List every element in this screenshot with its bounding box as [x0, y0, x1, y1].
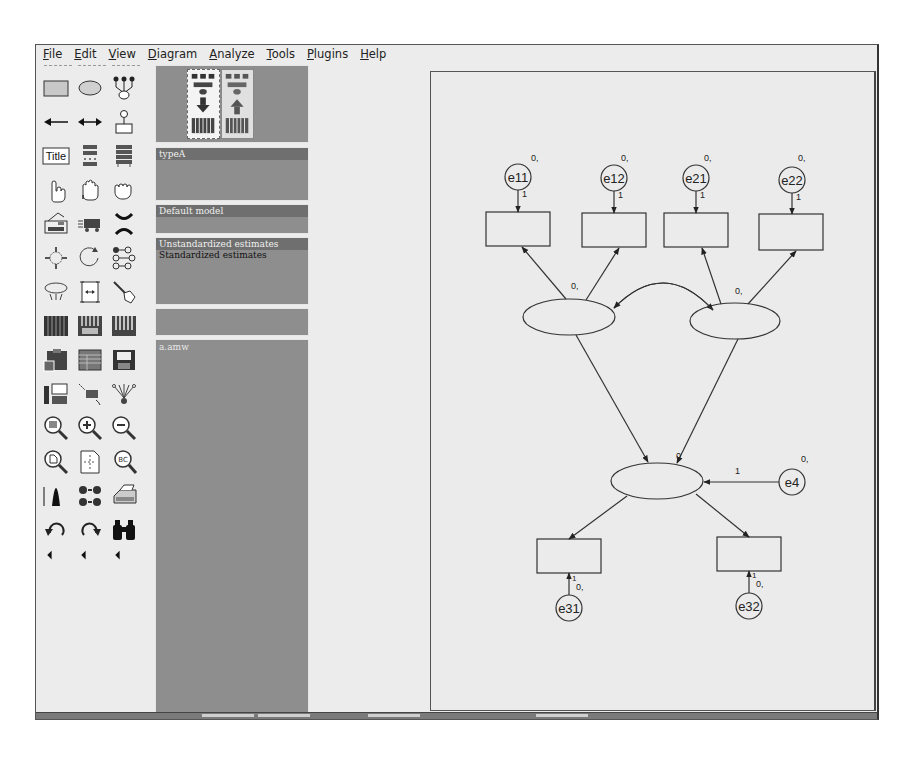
observed-variable-box[interactable]	[537, 539, 601, 573]
menu-plugins[interactable]: Plugins	[302, 47, 353, 61]
error-mean-label: 0,	[576, 582, 584, 592]
menu-help-accel: H	[360, 47, 369, 61]
zoom-page-icon[interactable]	[40, 447, 72, 477]
object-properties-icon[interactable]	[40, 379, 72, 409]
touch-up-variable-icon[interactable]	[108, 277, 140, 307]
menu-file[interactable]: File	[38, 47, 67, 61]
toolbar-grip	[78, 65, 106, 68]
menu-diagram-accel: D	[148, 47, 157, 61]
latent-mean-label: 0,	[735, 286, 743, 296]
move-objects-icon[interactable]	[74, 209, 106, 239]
view-text-output-icon[interactable]	[74, 345, 106, 375]
observed-variable-box[interactable]	[486, 212, 550, 246]
error-label: e4	[785, 475, 799, 490]
unique-variable-icon[interactable]	[108, 107, 140, 137]
observed-variable-box[interactable]	[582, 213, 646, 247]
path-weight-label: 1	[522, 189, 527, 199]
path-diagram: e11 0, 1 e12 0, 1 e21 0, 1 e22 0, 1 0, 0…	[431, 72, 877, 712]
undo-icon[interactable]	[40, 515, 72, 545]
error-mean-label: 0,	[756, 579, 764, 589]
reflect-indicators-icon[interactable]	[108, 243, 140, 273]
latent-variable-outcome[interactable]	[611, 463, 703, 499]
latent-variable-left[interactable]	[523, 299, 615, 335]
file-item[interactable]: a.amw	[156, 340, 308, 352]
view-input-path-diagram-button[interactable]	[187, 69, 220, 139]
scroll-left-icon[interactable]	[74, 547, 106, 563]
scroll-left-icon[interactable]	[40, 547, 72, 563]
scroll-diagram-icon[interactable]	[74, 277, 106, 307]
copy-to-clipboard-icon[interactable]	[40, 345, 72, 375]
menu-help[interactable]: Help	[355, 47, 391, 61]
groups-panel: typeA	[155, 147, 309, 201]
redo-icon[interactable]	[74, 515, 106, 545]
drag-properties-icon[interactable]	[74, 379, 106, 409]
save-diagram-icon[interactable]	[108, 345, 140, 375]
path-weight-label: 1	[572, 574, 577, 583]
scroll-left-icon[interactable]	[108, 547, 140, 563]
output-diagram-icon	[222, 70, 253, 138]
computation-summary-panel	[155, 308, 309, 336]
change-shape-icon[interactable]	[40, 243, 72, 273]
drawing-area[interactable]: e11 0, 1 e12 0, 1 e21 0, 1 e22 0, 1 0, 0…	[430, 71, 876, 711]
duplicate-objects-icon[interactable]	[40, 209, 72, 239]
move-parameter-icon[interactable]	[40, 277, 72, 307]
error-mean-label: 0,	[621, 153, 629, 163]
error-mean-label: 0,	[798, 153, 806, 163]
select-data-files-icon[interactable]	[40, 311, 72, 341]
model-item-selected[interactable]: Default model	[156, 205, 308, 217]
zoom-in-area-icon[interactable]	[40, 413, 72, 443]
degrees-of-freedom-icon[interactable]	[40, 481, 72, 511]
title-icon[interactable]: Title	[40, 141, 72, 171]
path-weight-label: 1	[700, 190, 705, 200]
specification-search-icon[interactable]	[108, 515, 140, 545]
print-icon[interactable]	[108, 481, 140, 511]
observed-variable-box[interactable]	[664, 213, 728, 247]
menu-tools-label: ools	[272, 47, 295, 61]
observed-variable-box[interactable]	[759, 214, 823, 250]
path-diagram-view-panel	[155, 65, 309, 143]
list-variables-in-dataset-icon[interactable]	[108, 141, 140, 171]
latent-mean-label: 0,	[571, 281, 579, 291]
status-segment	[202, 714, 254, 717]
calculate-estimates-icon[interactable]	[108, 311, 140, 341]
menu-analyze[interactable]: Analyze	[204, 47, 259, 61]
deselect-all-icon[interactable]	[108, 175, 140, 205]
toolbar-grip	[44, 65, 72, 68]
select-one-object-icon[interactable]	[40, 175, 72, 205]
single-arrow-path-icon[interactable]	[40, 107, 72, 137]
svg-text:BC: BC	[118, 456, 128, 464]
models-panel: Default model	[155, 204, 309, 234]
erase-objects-icon[interactable]	[108, 209, 140, 239]
status-segment	[368, 714, 420, 717]
format-standardized[interactable]: Standardized estimates	[156, 250, 308, 260]
group-item-selected[interactable]: typeA	[156, 148, 308, 160]
analysis-properties-icon[interactable]	[74, 311, 106, 341]
zoom-out-icon[interactable]	[108, 413, 140, 443]
latent-indicator-icon[interactable]	[108, 73, 140, 103]
menu-help-label: elp	[369, 47, 387, 61]
status-segment	[536, 714, 588, 717]
zoom-in-icon[interactable]	[74, 413, 106, 443]
menu-diagram[interactable]: Diagram	[143, 47, 202, 61]
rectangle-observed-variable-icon[interactable]	[40, 73, 72, 103]
menu-edit[interactable]: Edit	[69, 47, 101, 61]
menu-tools[interactable]: Tools	[262, 47, 300, 61]
rotate-indicators-icon[interactable]	[74, 243, 106, 273]
path-weight-label: 1	[618, 190, 623, 200]
status-bar	[36, 712, 877, 719]
observed-variable-box[interactable]	[717, 537, 781, 571]
fit-to-page-icon[interactable]	[74, 447, 106, 477]
menu-view[interactable]: View	[104, 47, 141, 61]
select-all-objects-icon[interactable]	[74, 175, 106, 205]
ellipse-unobserved-variable-icon[interactable]	[74, 73, 106, 103]
menu-bar: File Edit View Diagram Analyze Tools Plu…	[36, 45, 877, 63]
multiple-group-icon[interactable]	[74, 481, 106, 511]
format-unstandardized[interactable]: Unstandardized estimates	[156, 238, 308, 250]
view-output-path-diagram-button[interactable]	[221, 69, 254, 139]
preserve-symmetries-icon[interactable]	[108, 379, 140, 409]
double-arrow-covariance-icon[interactable]	[74, 107, 106, 137]
list-variables-in-model-icon[interactable]	[74, 141, 106, 171]
error-mean-label: 0,	[704, 153, 712, 163]
magnify-glass-icon[interactable]: BC	[108, 447, 140, 477]
latent-variable-right[interactable]	[690, 303, 780, 339]
